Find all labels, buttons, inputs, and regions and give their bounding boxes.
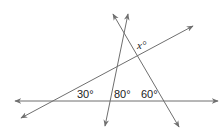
rising-line (21, 26, 193, 118)
steep-line-right (113, 14, 179, 127)
diagram: 30° 80° 60° x° (0, 0, 223, 134)
diagram-canvas: 30° 80° 60° x° (0, 0, 223, 134)
angle-label-x: x° (136, 39, 147, 51)
angle-label-60: 60° (141, 88, 158, 100)
angle-label-30: 30° (77, 88, 94, 100)
steep-line-left (105, 14, 128, 126)
angle-label-80: 80° (114, 88, 131, 100)
